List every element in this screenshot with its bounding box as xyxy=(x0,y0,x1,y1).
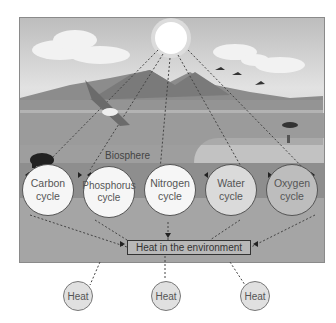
cycle-label-line2: cycle xyxy=(82,192,135,204)
sun-icon xyxy=(151,18,191,58)
cycle-label-line1: Carbon xyxy=(31,177,65,190)
carbon-cycle-node: Carboncycle xyxy=(22,164,74,216)
heat-in-environment-box: Heat in the environment xyxy=(127,240,251,255)
heat-output-node: Heat xyxy=(240,281,270,311)
biosphere-label: Biosphere xyxy=(105,150,150,161)
heat-output-node: Heat xyxy=(63,281,93,311)
cycle-label-line2: cycle xyxy=(217,190,245,203)
water-cycle-node: Watercycle xyxy=(205,164,257,216)
nitrogen-cycle-node: Nitrogencycle xyxy=(144,164,196,216)
cycle-label-line1: Nitrogen xyxy=(150,177,190,190)
cycle-label-line2: cycle xyxy=(150,190,190,203)
cycle-label-line1: Water xyxy=(217,177,245,190)
cycle-label-line1: Phosphorus xyxy=(82,180,135,192)
phosphorus-cycle-node: Phosphoruscycle xyxy=(83,166,135,218)
cycle-label-line2: cycle xyxy=(274,190,310,203)
oxygen-cycle-node: Oxygencycle xyxy=(266,164,318,216)
cycle-label-line1: Oxygen xyxy=(274,177,310,190)
heat-output-node: Heat xyxy=(151,281,181,311)
cycle-label-line2: cycle xyxy=(31,190,65,203)
scene-illustration xyxy=(0,0,336,323)
